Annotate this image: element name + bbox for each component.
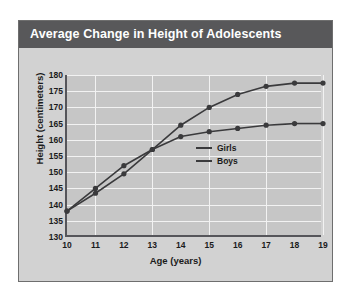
y-tick-label: 165: [49, 119, 63, 129]
y-tick-label: 175: [49, 86, 63, 96]
series-line-boys: [67, 83, 323, 211]
legend-swatch-icon: [196, 160, 212, 162]
x-tick-label: 16: [233, 240, 242, 250]
chart-title-bar: Average Change in Height of Adolescents: [19, 21, 332, 48]
legend-label: Girls: [217, 143, 236, 153]
data-point: [235, 92, 240, 97]
y-tick-label: 155: [49, 151, 63, 161]
legend-item-girls: Girls: [196, 141, 238, 154]
data-point: [93, 191, 98, 196]
gridline-vertical: [323, 75, 324, 235]
data-point: [320, 81, 325, 86]
x-tick-label: 14: [176, 240, 185, 250]
plot-wrapper: 130135140145150155160165170175180 101112…: [65, 75, 321, 237]
y-tick-label: 150: [49, 167, 63, 177]
data-point: [64, 208, 69, 213]
y-tick-label: 135: [49, 216, 63, 226]
y-tick-label: 140: [49, 200, 63, 210]
data-point: [178, 123, 183, 128]
x-axis-title: Age (years): [19, 255, 332, 266]
data-point: [150, 147, 155, 152]
x-tick-label: 15: [204, 240, 213, 250]
data-point: [121, 163, 126, 168]
data-point: [264, 123, 269, 128]
y-tick-label: 145: [49, 183, 63, 193]
data-point: [292, 121, 297, 126]
data-point: [264, 84, 269, 89]
data-point: [320, 121, 325, 126]
data-point: [292, 81, 297, 86]
chart-legend: GirlsBoys: [196, 141, 238, 167]
y-tick-label: 130: [49, 232, 63, 242]
y-axis-title: Height (centimeters): [34, 44, 45, 194]
x-tick-label: 18: [290, 240, 299, 250]
data-point: [121, 171, 126, 176]
data-point: [207, 129, 212, 134]
series-lines: [67, 75, 323, 237]
plot-area: 130135140145150155160165170175180 101112…: [65, 75, 321, 237]
x-tick-label: 13: [148, 240, 157, 250]
x-tick-label: 12: [119, 240, 128, 250]
x-tick-label: 17: [261, 240, 270, 250]
data-point: [207, 105, 212, 110]
y-tick-label: 180: [49, 70, 63, 80]
data-point: [178, 134, 183, 139]
series-line-girls: [67, 124, 323, 211]
legend-item-boys: Boys: [196, 154, 238, 167]
x-tick-label: 10: [62, 240, 71, 250]
page-title: Average Change in Height of Adolescents: [30, 27, 282, 41]
legend-swatch-icon: [196, 147, 212, 149]
x-tick-label: 19: [318, 240, 327, 250]
chart-panel: Average Change in Height of Adolescents …: [18, 20, 333, 282]
x-tick-label: 11: [91, 240, 100, 250]
y-tick-label: 160: [49, 135, 63, 145]
data-point: [235, 126, 240, 131]
legend-label: Boys: [217, 156, 238, 166]
y-tick-label: 170: [49, 102, 63, 112]
data-point: [93, 186, 98, 191]
